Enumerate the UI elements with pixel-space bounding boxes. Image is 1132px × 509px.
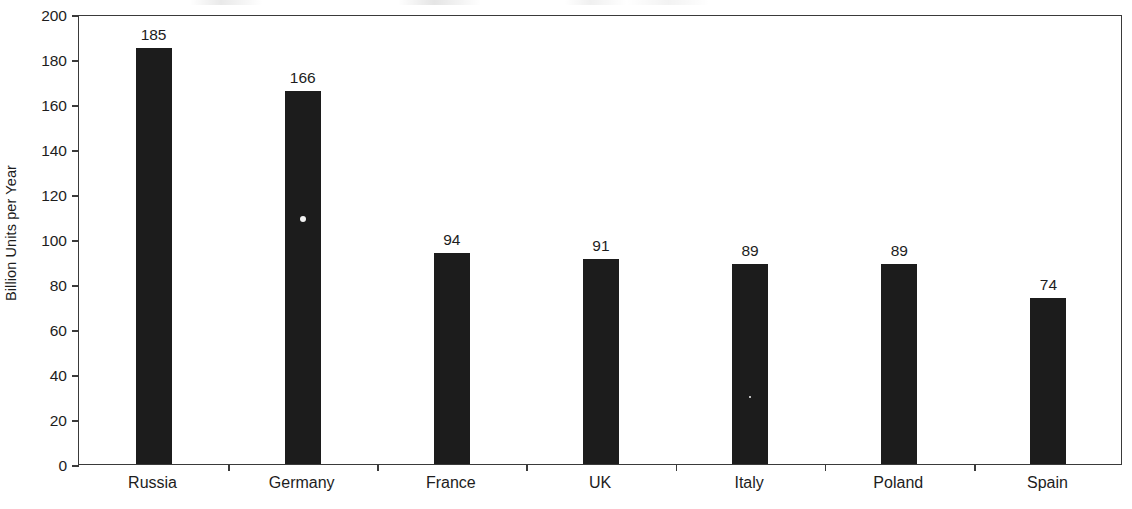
y-axis-tick-mark [72,465,79,467]
bar [583,259,619,464]
bar-slot: 94 [377,16,526,464]
bar [881,264,917,464]
y-axis-tick-label: 80 [50,275,67,296]
bar-slot: 89 [825,16,974,464]
bars-layer: 1851669491898974 [79,16,1121,464]
bar-value-label: 94 [443,230,460,249]
y-axis-tick-mark [72,330,79,332]
bar [434,253,470,465]
y-axis-title: Billion Units per Year [0,0,22,465]
bar-value-label: 166 [290,68,316,87]
y-axis-tick-mark [72,240,79,242]
bar [732,264,768,464]
y-axis-tick-mark [72,195,79,197]
bar-slot: 74 [974,16,1123,464]
x-axis-category-label: UK [525,470,674,496]
bar-value-label: 89 [742,241,759,260]
y-axis-tick-mark [72,420,79,422]
y-axis-tick-label: 40 [50,365,67,386]
bar [285,91,321,465]
y-axis-title-text: Billion Units per Year [3,165,19,301]
bar [136,48,172,464]
bar-value-label: 74 [1040,275,1057,294]
y-axis-tick-label: 140 [41,140,67,161]
bar-slot: 89 [676,16,825,464]
bar-value-label: 91 [592,236,609,255]
y-axis-tick-label: 0 [58,455,67,476]
y-axis-tick-label: 180 [41,50,67,71]
bar-slot: 166 [228,16,377,464]
x-axis-category-label: Russia [78,470,227,496]
bar [1030,298,1066,465]
y-axis-tick-label: 20 [50,410,67,431]
y-axis-tick-mark [72,375,79,377]
y-axis-tick-label: 120 [41,185,67,206]
bar-value-label: 89 [891,241,908,260]
y-axis-tick-mark [72,150,79,152]
y-axis-tick-mark [72,285,79,287]
bar-slot: 91 [526,16,675,464]
y-axis-tick-label: 200 [41,5,67,26]
y-axis-tick-mark [72,105,79,107]
x-axis-category-label: Germany [227,470,376,496]
y-axis-tick-label: 160 [41,95,67,116]
bar-value-label: 185 [141,25,167,44]
y-axis-tick-label: 60 [50,320,67,341]
cropped-title-remnant [190,0,710,5]
x-axis-category-label: France [376,470,525,496]
bar-chart-figure: Billion Units per Year 02040608010012014… [0,0,1132,509]
y-axis-tick-label: 100 [41,230,67,251]
x-axis-category-label: Spain [973,470,1122,496]
x-axis-category-label: Poland [824,470,973,496]
y-axis-tick-mark [72,15,79,17]
x-axis-category-label: Italy [675,470,824,496]
x-axis-labels: RussiaGermanyFranceUKItalyPolandSpain [78,470,1122,504]
bar-slot: 185 [79,16,228,464]
y-axis-tick-mark [72,60,79,62]
plot-area: 020406080100120140160180200 185166949189… [78,15,1122,465]
